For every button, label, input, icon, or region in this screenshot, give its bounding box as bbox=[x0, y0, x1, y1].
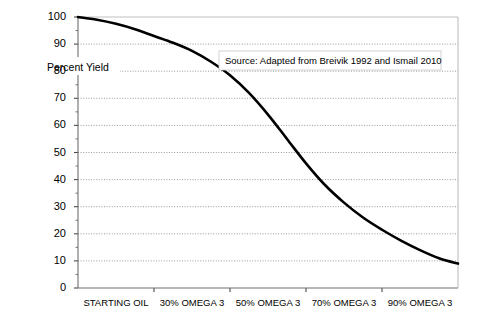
x-ticks-group bbox=[154, 288, 382, 292]
y-tick-label: 20 bbox=[32, 228, 66, 239]
x-tick-label: 90% OMEGA 3 bbox=[382, 298, 458, 308]
y-tick-label: 30 bbox=[32, 201, 66, 212]
x-tick-label: 70% OMEGA 3 bbox=[306, 298, 382, 308]
x-tick-label: STARTING OIL bbox=[78, 298, 154, 308]
source-note-text: Source: Adapted from Breivik 1992 and Is… bbox=[225, 55, 442, 66]
y-tick-label: 70 bbox=[32, 92, 66, 103]
y-tick-label: 40 bbox=[32, 174, 66, 185]
y-tick-label: 90 bbox=[32, 38, 66, 49]
axis-note-percent-yield: Percent Yield bbox=[47, 61, 109, 73]
y-tick-label: 100 bbox=[32, 11, 66, 22]
x-tick-label: 50% OMEGA 3 bbox=[230, 298, 306, 308]
x-tick-label: 30% OMEGA 3 bbox=[154, 298, 230, 308]
y-tick-label: 0 bbox=[32, 282, 66, 293]
y-tick-label: 50 bbox=[32, 147, 66, 158]
y-tick-label: 10 bbox=[32, 255, 66, 266]
y-tick-label: 60 bbox=[32, 119, 66, 130]
chart-figure: 1009080706050403020100 STARTING OIL30% O… bbox=[0, 0, 477, 327]
plot-area bbox=[0, 0, 477, 327]
